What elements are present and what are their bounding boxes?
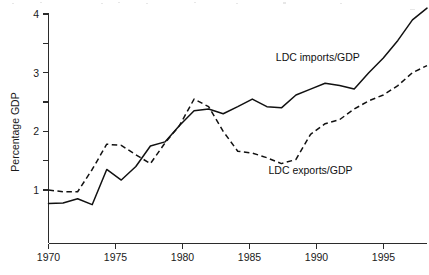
y-tick-label-4: 4 [33, 8, 39, 20]
line-chart: 4 3 2 1 Percentage GDP 1970 1975 1980 19… [0, 0, 429, 275]
y-tick-label-3: 3 [33, 67, 39, 79]
series-annotation-ldc-imports: LDC imports/GDP [276, 51, 360, 63]
y-tick-label-1: 1 [33, 184, 39, 196]
x-tick-label-1990: 1990 [305, 251, 329, 263]
x-tick-label-1975: 1975 [104, 251, 128, 263]
y-tick-label-2: 2 [33, 125, 39, 137]
chart-page: 4 3 2 1 Percentage GDP 1970 1975 1980 19… [0, 0, 429, 275]
scan-speckle-artifacts [12, 2, 415, 10]
x-tick-label-1980: 1980 [171, 251, 195, 263]
series-line-ldc-imports [49, 8, 428, 205]
y-axis: 4 3 2 1 Percentage GDP [9, 8, 49, 243]
x-tick-label-1970: 1970 [37, 251, 61, 263]
series-annotation-ldc-exports: LDC exports/GDP [269, 164, 353, 176]
x-tick-label-1995: 1995 [372, 251, 396, 263]
x-axis: 1970 1975 1980 1985 1990 1995 [37, 244, 427, 264]
x-tick-label-1985: 1985 [238, 251, 262, 263]
y-axis-title: Percentage GDP [9, 92, 21, 171]
